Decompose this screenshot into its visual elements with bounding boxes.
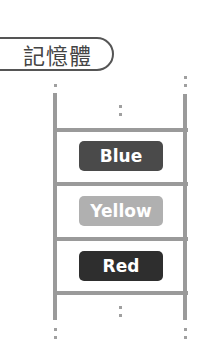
ellipsis-dot <box>119 105 122 108</box>
memory-divider <box>54 291 188 295</box>
memory-divider <box>54 182 188 186</box>
ellipsis-dot <box>119 306 122 309</box>
ellipsis-dot <box>184 336 187 339</box>
memory-cell-label: Yellow <box>90 201 151 221</box>
memory-cell-blue: Blue <box>79 141 163 171</box>
memory-divider <box>54 128 188 132</box>
ellipsis-dot <box>119 314 122 317</box>
ellipsis-dot <box>54 84 57 87</box>
ellipsis-dot <box>184 84 187 87</box>
memory-title-label: 記憶體 <box>0 37 114 71</box>
memory-cell-label: Blue <box>100 146 142 166</box>
memory-cell-yellow: Yellow <box>79 196 163 226</box>
ellipsis-dot <box>184 328 187 331</box>
memory-cell-label: Red <box>103 256 140 276</box>
ellipsis-dot <box>54 328 57 331</box>
memory-right-rail-lower <box>183 272 187 320</box>
memory-title-text: 記憶體 <box>23 38 92 70</box>
memory-divider <box>54 237 188 241</box>
memory-left-rail-lower <box>53 273 57 320</box>
memory-cell-red: Red <box>79 251 163 281</box>
ellipsis-dot <box>54 336 57 339</box>
ellipsis-dot <box>184 76 187 79</box>
ellipsis-dot <box>119 113 122 116</box>
